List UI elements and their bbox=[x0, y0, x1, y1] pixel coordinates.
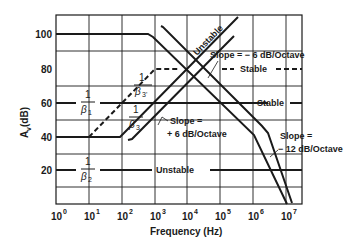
svg-text:7: 7 bbox=[293, 208, 297, 215]
label-slope-plus6-line1: Slope = bbox=[170, 116, 202, 126]
label-slope-minus6: Slope = − 6 dB/Octave bbox=[210, 50, 305, 60]
y-tick-100: 100 bbox=[35, 29, 52, 40]
svg-text:(dB): (dB) bbox=[19, 107, 30, 127]
svg-text:β: β bbox=[80, 171, 87, 182]
label-slope-plus6-line2: + 6 dB/Octave bbox=[167, 129, 227, 139]
svg-text:1: 1 bbox=[85, 156, 91, 167]
y-axis-label: A v (dB) bbox=[19, 107, 32, 138]
y-axis-ticks: 100 80 60 40 20 bbox=[35, 29, 52, 176]
svg-text:1: 1 bbox=[88, 109, 92, 116]
y-tick-20: 20 bbox=[41, 165, 53, 176]
bode-chart: 100 80 60 40 20 A v (dB) 100 101 102 103… bbox=[0, 0, 358, 246]
svg-text:β: β bbox=[80, 104, 87, 115]
grid-vertical bbox=[89, 15, 286, 204]
svg-text:10: 10 bbox=[248, 211, 260, 222]
svg-text:1: 1 bbox=[133, 104, 139, 115]
label-slope-minus12-line1: Slope = bbox=[280, 131, 312, 141]
x-axis-label: Frequency (Hz) bbox=[150, 226, 222, 237]
label-inv-beta3: 1 β 3 bbox=[128, 104, 143, 131]
svg-text:3': 3' bbox=[142, 91, 147, 98]
label-slope-minus12-line2: − 12 dB/Octave bbox=[278, 144, 343, 154]
label-stable-80: Stable bbox=[240, 64, 267, 74]
label-inv-beta2: 1 β 2 bbox=[80, 156, 95, 183]
label-stable-60: Stable bbox=[257, 98, 284, 108]
y-tick-40: 40 bbox=[41, 132, 53, 143]
svg-text:1: 1 bbox=[139, 72, 145, 83]
label-inv-beta1: 1 β 1 bbox=[80, 89, 95, 116]
leader-slope-minus6 bbox=[208, 61, 218, 78]
label-unstable-20: Unstable bbox=[156, 165, 194, 175]
svg-text:10: 10 bbox=[150, 211, 162, 222]
svg-text:β: β bbox=[134, 86, 141, 97]
svg-text:4: 4 bbox=[194, 208, 198, 215]
svg-text:6: 6 bbox=[260, 208, 264, 215]
svg-text:3: 3 bbox=[162, 208, 166, 215]
svg-text:0: 0 bbox=[63, 208, 67, 215]
svg-text:1: 1 bbox=[85, 89, 91, 100]
svg-text:10: 10 bbox=[281, 211, 293, 222]
svg-text:10: 10 bbox=[84, 211, 96, 222]
svg-text:10: 10 bbox=[51, 211, 63, 222]
leader-slope-plus6 bbox=[158, 117, 168, 125]
x-axis-ticks: 100 101 102 103 104 105 106 107 bbox=[51, 208, 297, 222]
label-inv-beta3-prime: 1 β 3' bbox=[134, 72, 152, 98]
svg-text:2: 2 bbox=[88, 176, 92, 183]
svg-text:5: 5 bbox=[227, 208, 231, 215]
svg-text:10: 10 bbox=[215, 211, 227, 222]
svg-text:3: 3 bbox=[136, 124, 140, 131]
y-tick-60: 60 bbox=[41, 98, 53, 109]
svg-text:β: β bbox=[128, 119, 135, 130]
svg-text:10: 10 bbox=[182, 211, 194, 222]
y-tick-80: 80 bbox=[41, 64, 53, 75]
svg-text:1: 1 bbox=[96, 208, 100, 215]
svg-text:2: 2 bbox=[129, 208, 133, 215]
svg-text:10: 10 bbox=[117, 211, 129, 222]
